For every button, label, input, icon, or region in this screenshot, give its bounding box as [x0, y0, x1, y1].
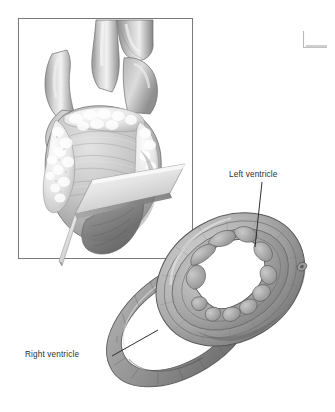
corner-registration-mark [304, 31, 328, 48]
heart-whole-view-panel [19, 19, 193, 267]
label-right-ventricle: Right ventricle [25, 351, 79, 359]
label-left-ventricle: Left ventricle [229, 171, 278, 179]
illustration-stage: Left ventricle Right ventricle [0, 0, 335, 412]
